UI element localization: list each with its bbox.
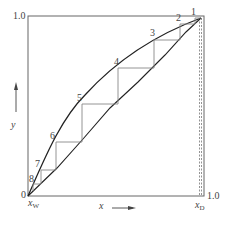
- x-max-label: 1.0: [207, 191, 220, 201]
- y-arrow-head: [14, 82, 18, 90]
- stage-label-2: 2: [176, 13, 181, 23]
- stage-label-8: 8: [29, 174, 34, 184]
- stage-label-7: 7: [35, 159, 40, 169]
- stage-label-3: 3: [150, 28, 155, 38]
- xd-label: xD: [195, 200, 205, 212]
- y-axis-label: y: [11, 120, 15, 130]
- stage-label-5: 5: [77, 93, 82, 103]
- plot-frame: [28, 16, 204, 196]
- stage-label-4: 4: [114, 57, 119, 67]
- stage-label-1: 1: [191, 7, 196, 17]
- xd-subscript: D: [199, 204, 204, 212]
- xw-subscript: W: [32, 202, 39, 210]
- x-axis-label: x: [99, 201, 103, 211]
- operating-line: [28, 18, 201, 196]
- stage-label-6: 6: [50, 131, 55, 141]
- x-arrow-head: [128, 206, 136, 210]
- xw-label: xW: [28, 198, 39, 210]
- y-max-label: 1.0: [13, 11, 26, 21]
- origin-label: 0: [21, 190, 26, 200]
- mccabe-thiele-diagram: [0, 0, 225, 227]
